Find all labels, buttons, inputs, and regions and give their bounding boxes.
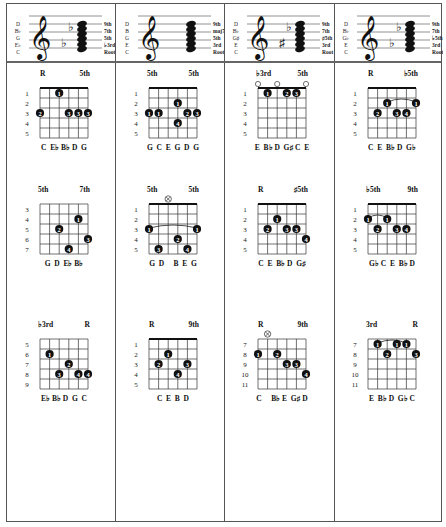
svg-text:E B♭ D G♭ C: E B♭ D G♭ C [369,394,415,403]
svg-text:7: 7 [353,341,357,349]
svg-text:R: R [413,320,419,329]
svg-text:2: 2 [386,351,389,358]
svg-text:8: 8 [353,351,357,359]
svg-text:11: 11 [352,381,359,389]
svg-text:1: 1 [376,341,379,348]
svg-text:1: 1 [395,341,398,348]
svg-text:10: 10 [352,371,360,379]
svg-text:3rd: 3rd [366,320,378,329]
svg-text:9: 9 [353,361,357,369]
svg-text:1: 1 [405,341,408,348]
chord-chart-sheet: 𝄞DB♭GE♭C♭♭9th7th5th♭3rdRoot𝄞DBGEC9thmaj7… [6,3,442,522]
